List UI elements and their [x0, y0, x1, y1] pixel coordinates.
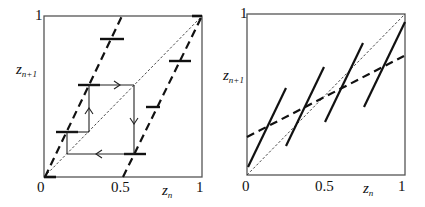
left-x-tick-0: 0 [37, 180, 45, 195]
right-x-axis-label: zn [363, 181, 373, 198]
right-diagonal [247, 14, 405, 175]
left-y-tick-1: 1 [35, 8, 43, 23]
right-x-tick-1: 1 [398, 179, 406, 194]
right-average-line [247, 56, 404, 137]
right-y-tick-1: 1 [240, 6, 248, 21]
left-panel [44, 16, 202, 177]
right-y-axis-label: zn+1 [223, 68, 244, 85]
right-panel [247, 14, 405, 175]
map-segment [286, 67, 324, 146]
map-segment [325, 43, 363, 122]
right-x-tick-0: 0 [242, 179, 250, 194]
diagram-canvas [0, 0, 425, 207]
map-segment [364, 22, 405, 107]
left-x-axis-label: zn [162, 183, 172, 200]
left-x-tick-05: 0.5 [111, 180, 130, 195]
right-x-tick-05: 0.5 [315, 179, 334, 194]
left-x-tick-1: 1 [196, 180, 204, 195]
left-y-axis-label: zn+1 [16, 62, 37, 79]
